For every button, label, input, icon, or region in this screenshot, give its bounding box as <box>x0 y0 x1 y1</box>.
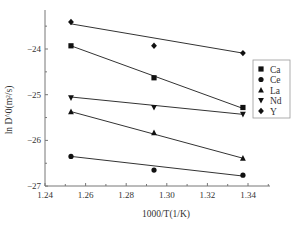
fit-line-la <box>71 112 243 159</box>
x-tick-label: 1.34 <box>240 190 256 200</box>
chart: 1.241.261.281.301.321.34−24−25−26−27 CaC… <box>0 0 302 229</box>
legend-label-y: Y <box>270 107 277 117</box>
data-point-ca <box>151 75 156 80</box>
x-tick-label: 1.24 <box>37 190 53 200</box>
y-tick-label: −25 <box>27 90 42 100</box>
y-tick-label: −24 <box>27 44 42 54</box>
data-point-nd <box>151 105 157 111</box>
data-point-la <box>68 109 74 115</box>
data-point-ce <box>151 168 156 173</box>
x-axis-label: 1000/T(1/K) <box>142 209 190 220</box>
y-tick-label: −27 <box>27 181 42 191</box>
data-point-nd <box>68 95 74 101</box>
data-point-y <box>151 43 157 49</box>
data-point-ce <box>240 173 245 178</box>
legend-label-ca: Ca <box>270 65 281 75</box>
x-tick-label: 1.26 <box>78 190 94 200</box>
legend-label-ce: Ce <box>270 75 281 85</box>
x-tick-label: 1.28 <box>118 190 134 200</box>
y-tick-label: −26 <box>27 135 42 145</box>
fit-line-ca <box>71 46 243 109</box>
fit-line-nd <box>71 97 243 114</box>
legend-label-la: La <box>270 86 281 96</box>
legend-marker-ca <box>258 66 263 71</box>
data-point-y <box>240 50 246 56</box>
fit-line-ce <box>71 156 243 176</box>
data-point-ca <box>68 43 73 48</box>
data-points <box>68 19 246 178</box>
x-tick-label: 1.32 <box>200 190 216 200</box>
legend-marker-ce <box>258 77 263 82</box>
x-tick-label: 1.30 <box>159 190 175 200</box>
fit-line-y <box>71 24 243 53</box>
data-point-ca <box>240 105 245 110</box>
fit-lines <box>71 24 243 176</box>
legend-label-nd: Nd <box>270 96 282 106</box>
data-point-la <box>151 130 157 136</box>
data-point-ce <box>68 154 73 159</box>
y-axis-label: ln D^0(m²/s) <box>4 86 15 135</box>
legend: CaCeLaNdY <box>253 60 290 118</box>
